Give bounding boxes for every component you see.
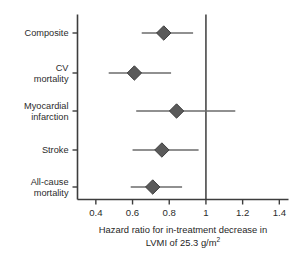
forest-plot-canvas: CompositeCVmortalityMyocardialinfarction… xyxy=(0,0,298,258)
category-label-2: infarction xyxy=(31,112,68,122)
x-tick-label-5: 1.4 xyxy=(273,207,287,218)
category-label-3: Stroke xyxy=(42,145,69,155)
x-tick-label-3: 1 xyxy=(203,207,208,218)
category-label-4: All-cause xyxy=(31,177,69,187)
figure-background xyxy=(0,0,298,258)
x-tick-label-1: 0.6 xyxy=(126,207,139,218)
forest-plot-figure: CompositeCVmortalityMyocardialinfarction… xyxy=(0,0,298,258)
x-tick-label-2: 0.8 xyxy=(163,207,176,218)
x-axis-title-superscript: 2 xyxy=(217,236,221,243)
x-axis-title-line2-text: LVMI of 25.3 g/m xyxy=(146,237,217,248)
category-label-1: mortality xyxy=(34,74,69,84)
x-axis-title-line2: LVMI of 25.3 g/m2 xyxy=(146,236,221,247)
x-tick-label-0: 0.4 xyxy=(89,207,103,218)
category-label-4: mortality xyxy=(34,188,69,198)
x-tick-label-4: 1.2 xyxy=(236,207,249,218)
x-axis-title-line1: Hazard ratio for in-treatment decrease i… xyxy=(99,224,267,235)
category-label-1: CV xyxy=(56,63,70,73)
category-label-2: Myocardial xyxy=(24,101,68,111)
category-label-0: Composite xyxy=(25,28,69,38)
